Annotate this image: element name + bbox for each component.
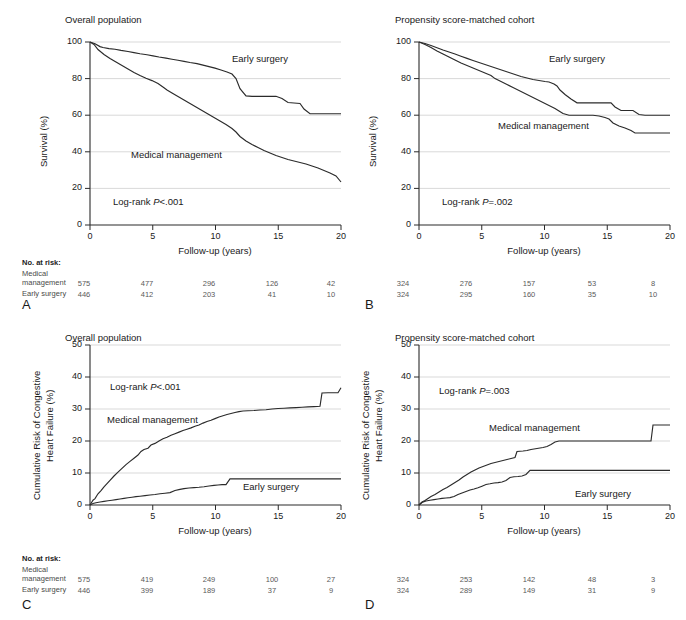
panel-b-ytick-20: 20 [383,182,411,192]
panel-a-y-axis-label: Survival (%) [38,116,49,167]
panel-c-risk-medical-1: 419 [133,575,161,584]
panel-a-xtick-0: 0 [78,231,102,241]
panel-a-logrank: Log-rank P<.001 [113,196,184,207]
panel-b-xtick-10: 10 [533,231,557,241]
panel-a-risk-early-0: 446 [70,290,98,299]
panel-c-label-medical-management: Medical management [107,414,198,425]
panel-c-ytick-50: 50 [54,339,82,349]
panel-b-xtick-15: 15 [595,231,619,241]
panel-c-risk-label-early: Early surgery [22,586,66,595]
panel-c-ytick-10: 10 [54,467,82,477]
panel-a-risk-header: No. at risk: [22,258,61,267]
panel-c-ytick-20: 20 [54,435,82,445]
panel-a-ytick-100: 100 [54,36,82,46]
panel-a-risk-medical-2: 296 [195,279,223,288]
panel-d-risk-early-3: 31 [578,586,606,595]
panel-c-label-early-surgery: Early surgery [243,481,299,492]
panel-a-logrank-suffix: <.001 [159,196,183,207]
panel-d-xtick-0: 0 [407,511,431,521]
panel-c-risk-early-3: 37 [258,586,286,595]
panel-c-ytick-40: 40 [54,371,82,381]
panel-b-label-early-surgery: Early surgery [549,53,605,64]
panel-a-xtick-10: 10 [204,231,228,241]
curve-early-surgery-d [419,470,670,505]
curve-early-surgery-a [90,42,341,114]
panel-b: Propensity score-matched cohort 100 80 6… [343,0,686,310]
panel-a-risk-early-4: 10 [317,290,345,299]
panel-b-xtick-0: 0 [407,231,431,241]
panel-b-risk-medical-4: 8 [639,279,667,288]
panel-d-xtick-20: 20 [658,511,682,521]
panel-d-ytick-0: 0 [383,499,411,509]
panel-b-logrank: Log-rank P=.002 [442,196,513,207]
panel-a-x-axis-label: Follow-up (years) [150,245,280,256]
panel-a-risk-medical-4: 42 [317,279,345,288]
panel-d-label-medical-management: Medical management [489,422,580,433]
panel-c-risk-medical-3: 100 [258,575,286,584]
panel-d-letter: D [365,597,374,612]
panel-d-xtick-15: 15 [595,511,619,521]
panel-d-logrank: Log-rank P=.003 [439,385,510,396]
panel-a-plot [0,0,343,250]
panel-d-ytick-50: 50 [383,339,411,349]
panel-a-risk-medical-0: 575 [70,279,98,288]
panel-d-logrank-suffix: =.003 [485,385,509,396]
curve-medical-management-d [419,425,670,505]
panel-b-risk-early-2: 160 [515,290,543,299]
panel-c-ytick-30: 30 [54,403,82,413]
panel-d-ytick-10: 10 [383,467,411,477]
panel-c-y-axis-label-line1: Cumulative Risk of Congestive [31,371,42,500]
panel-c-risk-early-2: 189 [195,586,223,595]
panel-b-risk-early-3: 35 [578,290,606,299]
panel-d-label-early-surgery: Early surgery [575,488,631,499]
panel-c-risk-medical-0: 575 [70,575,98,584]
panel-b-ytick-60: 60 [383,109,411,119]
panel-b-ytick-0: 0 [383,219,411,229]
panel-b-risk-medical-1: 276 [452,279,480,288]
panel-d-y-axis-label-line1: Cumulative Risk of Congestive [360,371,371,500]
panel-c-ytick-0: 0 [54,499,82,509]
panel-a-risk-early-3: 41 [258,290,286,299]
panel-b-label-medical-management: Medical management [498,120,589,131]
panel-b-risk-early-0: 324 [389,290,417,299]
panel-c-logrank: Log-rank P<.001 [110,381,181,392]
panel-c-xtick-0: 0 [78,511,102,521]
panel-a-risk-early-2: 203 [195,290,223,299]
panel-a-label-medical-management: Medical management [131,149,222,160]
panel-d: Propensity score-matched cohort 50 40 30… [343,310,686,620]
panel-c-y-axis-label-line2: Heart Failure (%) [44,390,55,462]
panel-c-risk-medical-2: 249 [195,575,223,584]
panel-b-risk-medical-3: 53 [578,279,606,288]
panel-d-risk-early-4: 9 [639,586,667,595]
panel-b-y-axis-label: Survival (%) [367,116,378,167]
panel-b-risk-early-4: 10 [639,290,667,299]
curve-early-surgery-c [90,479,341,505]
panel-d-risk-early-2: 149 [515,586,543,595]
panel-a-ytick-20: 20 [54,182,82,192]
panel-d-risk-medical-2: 142 [515,575,543,584]
panel-a-ytick-40: 40 [54,146,82,156]
panel-a-ytick-80: 80 [54,73,82,83]
panel-b-xtick-5: 5 [470,231,494,241]
panel-d-y-axis-label-line2: Heart Failure (%) [373,390,384,462]
panel-d-xtick-5: 5 [470,511,494,521]
panel-d-x-axis-label: Follow-up (years) [479,525,609,536]
panel-d-risk-early-0: 324 [389,586,417,595]
panel-c-risk-header: No. at risk: [22,554,61,563]
panel-d-risk-medical-4: 3 [639,575,667,584]
panel-a: Overall population 100 80 60 40 20 0 0 5… [0,0,343,310]
panel-b-logrank-prefix: Log-rank [442,196,482,207]
panel-d-ytick-20: 20 [383,435,411,445]
panel-d-risk-medical-1: 253 [452,575,480,584]
panel-a-risk-label-medical: Medical management [22,270,66,287]
panel-a-xtick-15: 15 [266,231,290,241]
curve-medical-management-a [90,42,341,182]
panel-d-ytick-40: 40 [383,371,411,381]
panel-d-risk-medical-0: 324 [389,575,417,584]
panel-b-logrank-suffix: =.002 [488,196,512,207]
panel-a-ytick-0: 0 [54,219,82,229]
panel-a-risk-label-medical-l2: management [22,278,66,287]
panel-d-xtick-10: 10 [533,511,557,521]
panel-d-ytick-30: 30 [383,403,411,413]
panel-a-risk-medical-1: 477 [133,279,161,288]
